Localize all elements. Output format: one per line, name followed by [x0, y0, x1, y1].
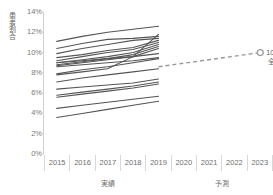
x-axis-year-cell: 2021	[197, 155, 222, 171]
y-tick-label: 2%	[31, 130, 42, 138]
annotation-marker-icon	[257, 50, 263, 56]
series-line	[57, 84, 159, 97]
series-line	[57, 82, 159, 95]
series-line	[57, 101, 159, 117]
x-axis-year-row: 201520162017201820192020202120222023	[44, 155, 273, 171]
x-axis-group-label: 予測	[171, 175, 273, 193]
series-lines	[44, 12, 273, 154]
annotation-overall: 10% 全体	[266, 48, 273, 66]
plot-area	[44, 12, 273, 154]
series-line	[57, 69, 159, 82]
x-axis-year-cell: 2022	[222, 155, 247, 171]
x-axis-group-label: 実績	[44, 175, 171, 193]
x-axis: 201520162017201820192020202120222023 実績予…	[44, 155, 273, 195]
y-tick-label: 4%	[31, 109, 42, 117]
x-axis-group-row: 実績予測	[44, 175, 273, 193]
x-axis-year-cell: 2019	[146, 155, 171, 171]
y-tick-label: 10%	[27, 49, 42, 57]
y-tick-label: 0%	[31, 150, 42, 158]
series-line	[57, 96, 159, 108]
series-line	[57, 34, 159, 75]
y-axis-tick-labels: 0%2%4%6%8%10%12%14%	[16, 0, 42, 160]
forecast-line	[159, 53, 261, 67]
x-axis-year-cell: 2018	[121, 155, 146, 171]
x-axis-year-cell: 2015	[44, 155, 70, 171]
y-tick-label: 6%	[31, 89, 42, 97]
x-axis-year-cell: 2017	[96, 155, 121, 171]
y-tick-label: 12%	[27, 28, 42, 36]
x-axis-year-cell: 2020	[172, 155, 197, 171]
chart-root: 患者割合 0%2%4%6%8%10%12%14% 10% 全体 20152016…	[0, 0, 273, 195]
x-axis-year-cell: 2016	[70, 155, 95, 171]
annotation-label: 全体	[266, 57, 273, 66]
y-tick-label: 14%	[27, 8, 42, 16]
y-axis-title: 患者割合	[2, 12, 16, 40]
y-tick-label: 8%	[31, 69, 42, 77]
x-axis-year-cell: 2023	[248, 155, 273, 171]
annotation-value: 10%	[266, 48, 273, 57]
